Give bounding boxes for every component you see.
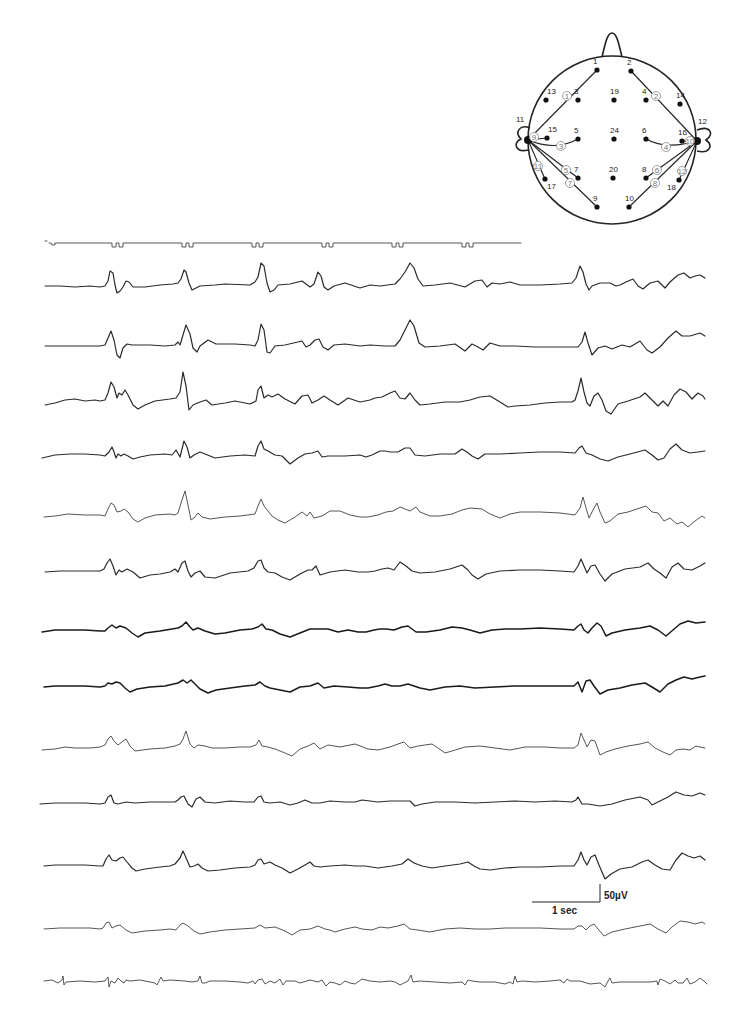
channel-number-9: 9 (532, 133, 537, 142)
electrode-5 (575, 136, 580, 141)
channel-number-7: 7 (568, 179, 573, 188)
electrode-montage-diagram: 123456789101112131415161718192024 123456… (516, 33, 711, 224)
eeg-trace-channel-13 (44, 975, 707, 987)
eeg-trace-channel-10 (40, 792, 705, 807)
electrode-label-16: 16 (678, 128, 687, 137)
electrode-label-24: 24 (610, 126, 619, 135)
channel-number-2: 2 (654, 92, 659, 101)
timing-marker-trace (45, 241, 521, 247)
electrode-1 (594, 67, 599, 72)
electrode-14 (677, 101, 682, 106)
electrode-label-7: 7 (574, 165, 579, 174)
electrode-15 (544, 135, 549, 140)
electrode-label-5: 5 (574, 126, 579, 135)
channel-number-6: 6 (655, 166, 660, 175)
eeg-trace-channel-8 (44, 676, 705, 694)
electrode-8 (643, 175, 648, 180)
calibration-scale-bar: 50µV 1 sec (532, 884, 628, 916)
eeg-trace-channel-3 (45, 372, 705, 414)
eeg-trace-channel-5 (44, 491, 705, 527)
electrode-label-6: 6 (642, 126, 647, 135)
electrode-dots: 123456789101112131415161718192024 (516, 57, 707, 210)
nose-icon (602, 33, 622, 57)
eeg-figure: 123456789101112131415161718192024 123456… (0, 0, 735, 1014)
eeg-trace-channel-1 (45, 263, 705, 293)
channel-number-4: 4 (664, 143, 669, 152)
electrode-label-2: 2 (627, 58, 632, 67)
channel-number-11: 11 (534, 162, 543, 171)
electrode-label-20: 20 (609, 165, 618, 174)
electrode-9 (594, 204, 599, 209)
electrode-label-9: 9 (593, 194, 598, 203)
eeg-trace-channel-6 (45, 559, 705, 581)
electrode-label-13: 13 (547, 87, 556, 96)
channel-number-10: 10 (686, 137, 695, 146)
eeg-trace-channel-2 (45, 320, 705, 358)
electrode-label-18: 18 (667, 183, 676, 192)
electrode-17 (542, 176, 547, 181)
eeg-trace-channel-12 (44, 921, 705, 936)
electrode-20 (610, 175, 615, 180)
electrode-18 (676, 177, 681, 182)
electrode-label-12: 12 (698, 117, 707, 126)
electrode-label-4: 4 (642, 87, 647, 96)
electrode-label-17: 17 (547, 182, 556, 191)
electrode-19 (611, 97, 616, 102)
channel-number-12: 12 (678, 167, 687, 176)
electrode-label-1: 1 (593, 57, 598, 66)
channel-number-8: 8 (653, 179, 658, 188)
electrode-6 (643, 136, 648, 141)
eeg-trace-channel-4 (42, 441, 705, 464)
electrode-16 (679, 138, 684, 143)
electrode-label-10: 10 (625, 194, 634, 203)
eeg-trace-channel-9 (42, 731, 705, 756)
electrode-label-14: 14 (676, 91, 685, 100)
electrode-2 (628, 68, 633, 73)
electrode-24 (611, 136, 616, 141)
eeg-trace-channel-11 (44, 851, 705, 879)
electrode-label-15: 15 (548, 125, 557, 134)
channel-number-3: 3 (559, 142, 564, 151)
electrode-label-3: 3 (574, 87, 579, 96)
electrode-label-11: 11 (516, 115, 525, 124)
eeg-traces (40, 263, 707, 987)
electrode-4 (643, 97, 648, 102)
time-scale-label: 1 sec (552, 905, 577, 916)
electrode-10 (626, 204, 631, 209)
electrode-label-19: 19 (610, 87, 619, 96)
channel-number-5: 5 (564, 166, 569, 175)
amplitude-scale-label: 50µV (604, 890, 628, 901)
electrode-label-8: 8 (642, 165, 647, 174)
electrode-13 (543, 97, 548, 102)
channel-number-1: 1 (565, 92, 570, 101)
electrode-7 (575, 175, 580, 180)
eeg-trace-channel-7 (42, 621, 705, 637)
electrode-3 (575, 97, 580, 102)
